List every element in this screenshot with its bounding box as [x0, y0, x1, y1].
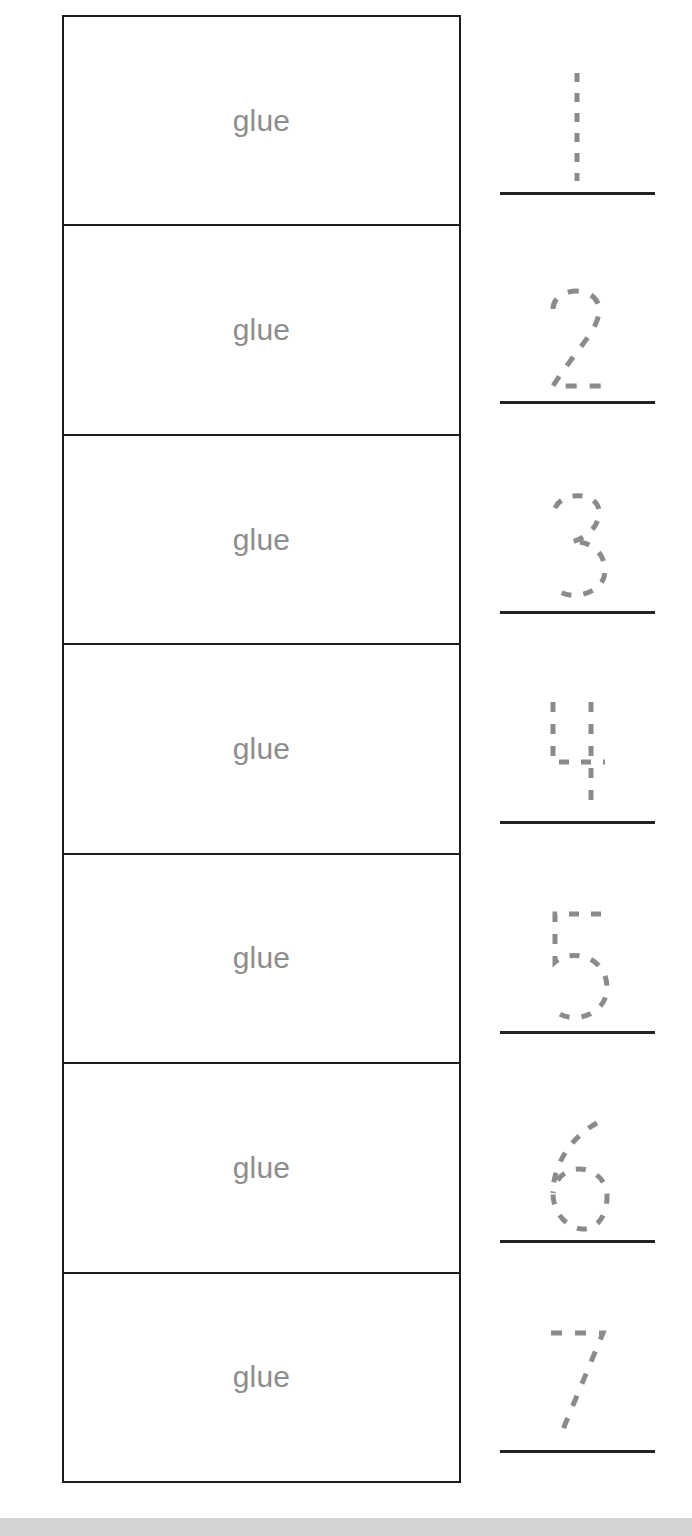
- glue-box-3[interactable]: glue: [64, 436, 459, 645]
- trace-glyph-wrap-6: [461, 1107, 692, 1235]
- trace-cell-1[interactable]: [461, 15, 692, 225]
- glue-label: glue: [233, 1153, 291, 1183]
- glue-box-6[interactable]: glue: [64, 1064, 459, 1273]
- dotted-numeral-3-icon: [537, 486, 617, 606]
- trace-cell-5[interactable]: [461, 854, 692, 1064]
- baseline-1: [500, 192, 655, 195]
- trace-glyph-wrap-3: [461, 478, 692, 606]
- glue-box-5[interactable]: glue: [64, 855, 459, 1064]
- bottom-gray-strip: [0, 1518, 692, 1536]
- trace-cell-7[interactable]: [461, 1273, 692, 1483]
- dotted-numeral-2-icon: [537, 276, 617, 396]
- trace-glyph-wrap-4: [461, 688, 692, 816]
- glue-label: glue: [233, 525, 291, 555]
- trace-cell-6[interactable]: [461, 1064, 692, 1274]
- trace-cell-4[interactable]: [461, 644, 692, 854]
- glue-label: glue: [233, 734, 291, 764]
- dotted-numeral-7-icon: [537, 1325, 617, 1445]
- baseline-5: [500, 1031, 655, 1034]
- dotted-numeral-5-icon: [537, 906, 617, 1026]
- trace-glyph-wrap-5: [461, 898, 692, 1026]
- trace-glyph-wrap-1: [461, 59, 692, 187]
- baseline-2: [500, 401, 655, 404]
- glue-label: glue: [233, 943, 291, 973]
- trace-glyph-wrap-2: [461, 268, 692, 396]
- baseline-7: [500, 1450, 655, 1453]
- glue-box-2[interactable]: glue: [64, 226, 459, 435]
- dotted-numeral-4-icon: [537, 696, 617, 816]
- trace-glyph-wrap-7: [461, 1317, 692, 1445]
- tracing-numeral-column: [461, 15, 692, 1483]
- glue-box-1[interactable]: glue: [64, 17, 459, 226]
- baseline-3: [500, 611, 655, 614]
- dotted-numeral-6-icon: [537, 1115, 617, 1235]
- baseline-4: [500, 821, 655, 824]
- glue-label: glue: [233, 315, 291, 345]
- trace-cell-2[interactable]: [461, 225, 692, 435]
- baseline-6: [500, 1240, 655, 1243]
- glue-label: glue: [233, 106, 291, 136]
- glue-box-4[interactable]: glue: [64, 645, 459, 854]
- trace-cell-3[interactable]: [461, 434, 692, 644]
- dotted-numeral-1-icon: [537, 67, 617, 187]
- glue-box-7[interactable]: glue: [64, 1274, 459, 1481]
- glue-box-column: glue glue glue glue glue glue glue: [62, 15, 461, 1483]
- glue-label: glue: [233, 1362, 291, 1392]
